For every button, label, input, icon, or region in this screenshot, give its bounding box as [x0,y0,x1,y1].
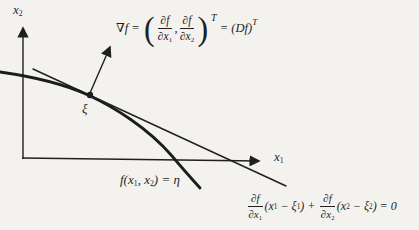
level-curve-label-p2: , x [138,172,150,187]
den-sub: 1 [259,214,262,221]
x2-axis-label-sub: 2 [19,9,23,18]
level-curve-label-sub2: 2 [150,179,154,188]
term1-open: (x [265,200,274,212]
x1-axis-label: x1 [274,150,284,163]
fraction-numerator: ∂f [320,191,335,207]
term2-open: (x [337,200,346,212]
term2-close-equals-zero: ) = 0 [373,200,397,212]
fraction-denominator: ∂x1 [248,207,262,221]
term1-sub2: 1 [297,204,301,211]
transpose-superscript: T [211,13,217,23]
x2-axis-label-base: x [13,2,19,17]
fraction-df-dx2: ∂f ∂x2 [180,13,195,43]
den-base: ∂x [158,30,169,42]
level-curve-label-p1: f(x [120,172,134,187]
fraction-df-dx1: ∂f ∂x1 [248,191,263,220]
transpose-superscript: T [252,18,257,27]
term2-sub1: 2 [346,204,350,211]
x1-axis [22,158,259,161]
level-curve-label: f(x1, x2) = η [120,173,180,186]
x2-axis-label: x2 [13,3,23,16]
xi-point-label-text: ξ [82,101,88,116]
fraction-denominator: ∂x2 [321,207,335,221]
den-sub: 1 [169,36,172,43]
fraction-df-dx1: ∂f ∂x1 [158,13,173,43]
den-sub: 2 [331,214,334,221]
level-curve [0,72,200,188]
tangent-point-dot [87,92,93,98]
fraction-df-dx2: ∂f ∂x2 [320,191,335,220]
x1-axis-label-base: x [274,149,280,164]
open-paren: ( [143,11,156,46]
fraction-denominator: ∂x2 [180,29,194,43]
xi-point-label: ξ [82,102,88,115]
den-base: ∂x [180,30,191,42]
gradient-formula-rhs: = (Df) [217,22,253,35]
gradient-formula: ∇f = ( ∂f ∂x1 , ∂f ∂x2 ) T = (Df) T [116,12,257,44]
gradient-formula-lhs: ∇f = [116,22,143,35]
level-curve-label-p3: ) = η [154,172,180,187]
den-sub: 2 [191,36,194,43]
fraction-numerator: ∂f [180,13,195,29]
tangent-line [33,69,286,186]
x1-axis-label-sub: 1 [280,156,284,165]
level-curve-label-sub1: 1 [134,179,138,188]
fraction-denominator: ∂x1 [158,29,172,43]
den-base: ∂x [248,208,258,220]
term2-sub2: 2 [369,204,373,211]
tangent-line-equation: ∂f ∂x1 (x1 − ξ1) + ∂f ∂x2 (x2 − ξ2) = 0 [246,191,397,220]
comma: , [174,22,177,35]
fraction-numerator: ∂f [158,13,173,29]
den-base: ∂x [321,208,331,220]
close-paren: ) [196,11,209,46]
gradient-arrow [90,47,110,93]
term1-sub1: 1 [274,204,278,211]
term1-minus-xi: − ξ [277,200,296,212]
fraction-numerator: ∂f [248,191,263,207]
term2-minus-xi: − ξ [350,200,369,212]
term1-close-plus: ) + [300,200,318,212]
